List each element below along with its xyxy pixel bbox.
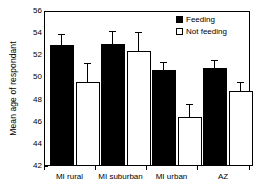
open-square-icon <box>176 28 183 35</box>
errorbar-cap-notfeeding-mi-urban <box>186 104 193 105</box>
legend-item-not-feeding: Not feeding <box>176 26 227 37</box>
errorbar-cap-feeding-mi-urban <box>160 62 167 63</box>
x-tick-mark-3 <box>197 166 198 170</box>
x-tick-label-az: AZ <box>197 172 249 181</box>
bar-notfeeding-mi-rural <box>76 82 100 166</box>
x-tick-label-mi-suburban: MI suburban <box>95 172 146 181</box>
errorbar-cap-feeding-az <box>211 60 218 61</box>
bar-notfeeding-mi-urban <box>178 117 202 166</box>
errorbar-line-feeding-mi-rural <box>61 34 62 45</box>
y-tick-label-50: 50 <box>16 73 42 81</box>
legend-label-feeding: Feeding <box>186 15 215 25</box>
y-tick-label-52: 52 <box>16 51 42 59</box>
errorbar-line-feeding-az <box>214 60 215 68</box>
bar-feeding-az <box>203 68 227 166</box>
chart-legend: Feeding Not feeding <box>176 14 227 38</box>
errorbar-line-feeding-mi-urban <box>163 62 164 70</box>
y-tick-label-42: 42 <box>16 162 42 170</box>
x-tick-mark-4 <box>249 166 250 170</box>
errorbar-line-feeding-mi-suburban <box>112 31 113 44</box>
bar-feeding-mi-urban <box>152 70 176 166</box>
x-tick-mark-2 <box>146 166 147 170</box>
y-tick-label-56: 56 <box>16 7 42 15</box>
y-tick-label-54: 54 <box>16 29 42 37</box>
y-tick-label-44: 44 <box>16 140 42 148</box>
x-tick-label-mi-rural: MI rural <box>44 172 95 181</box>
errorbar-line-notfeeding-mi-urban <box>189 104 190 117</box>
legend-item-feeding: Feeding <box>176 14 227 25</box>
bar-feeding-mi-suburban <box>101 44 125 166</box>
errorbar-cap-notfeeding-mi-rural <box>84 63 91 64</box>
x-tick-mark-1 <box>95 166 96 170</box>
x-tick-label-mi-urban: MI urban <box>146 172 197 181</box>
errorbar-line-notfeeding-mi-suburban <box>138 32 139 51</box>
x-tick-mark-0 <box>44 166 45 170</box>
bar-notfeeding-az <box>229 91 253 166</box>
legend-label-not-feeding: Not feeding <box>186 27 227 37</box>
errorbar-cap-feeding-mi-rural <box>58 34 65 35</box>
errorbar-cap-notfeeding-az <box>237 82 244 83</box>
y-tick-label-48: 48 <box>16 96 42 104</box>
y-tick-label-46: 46 <box>16 118 42 126</box>
bar-feeding-mi-rural <box>50 45 74 166</box>
errorbar-cap-notfeeding-mi-suburban <box>135 32 142 33</box>
errorbar-line-notfeeding-az <box>240 82 241 91</box>
errorbar-cap-feeding-mi-suburban <box>109 31 116 32</box>
bar-notfeeding-mi-suburban <box>127 51 151 166</box>
errorbar-line-notfeeding-mi-rural <box>87 63 88 82</box>
filled-square-icon <box>176 16 183 23</box>
bar-chart-figure: Mean age of respondant 56 54 52 50 48 46… <box>0 0 263 187</box>
